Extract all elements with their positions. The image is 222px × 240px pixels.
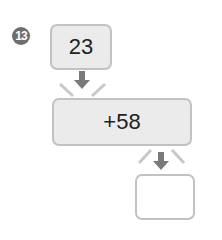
answer-box[interactable] — [135, 174, 195, 220]
problem-number-badge: 13 — [12, 27, 30, 45]
down-arrow-icon — [134, 146, 189, 176]
down-arrow-icon — [55, 70, 110, 100]
start-value-box: 23 — [50, 24, 112, 70]
operation-box: +58 — [52, 98, 192, 146]
